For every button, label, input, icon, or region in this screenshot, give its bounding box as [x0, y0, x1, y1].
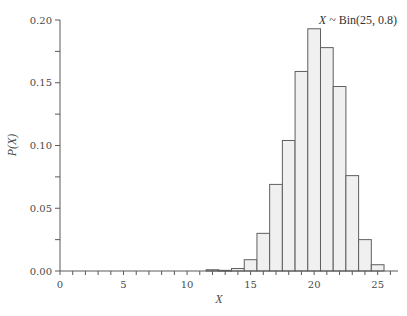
y-tick-label: 0.20: [30, 15, 52, 26]
x-tick-label: 25: [371, 279, 384, 290]
y-tick-label: 0.05: [30, 203, 52, 214]
bar-x-16: [257, 233, 270, 271]
bar-x-20: [308, 29, 321, 271]
bar-x-19: [295, 71, 308, 271]
x-tick-label: 10: [181, 279, 194, 290]
bar-x-17: [270, 184, 283, 271]
y-axis-label: P(X): [5, 134, 19, 158]
bar-x-15: [244, 260, 257, 271]
histogram-bars: [206, 29, 384, 271]
bar-x-21: [320, 48, 333, 271]
x-axis-label: X: [214, 292, 223, 306]
x-tick-label: 15: [244, 279, 257, 290]
title-distribution: ~ Bin(25, 0.8): [326, 13, 397, 27]
y-axis-ticks: 0.000.050.100.150.20: [30, 15, 60, 277]
bar-x-25: [371, 265, 384, 271]
x-tick-label: 5: [120, 279, 126, 290]
chart-title: X ~ Bin(25, 0.8): [318, 13, 397, 27]
x-tick-label: 20: [308, 279, 321, 290]
x-axis-ticks: 0510152025: [57, 271, 391, 290]
x-tick-label: 0: [57, 279, 63, 290]
binomial-distribution-chart: 0510152025 0.000.050.100.150.20 X P(X) X…: [0, 0, 407, 316]
y-tick-label: 0.00: [30, 266, 52, 277]
bar-x-22: [333, 87, 346, 271]
bar-x-23: [346, 176, 359, 271]
bar-x-24: [359, 240, 372, 271]
y-tick-label: 0.10: [30, 140, 52, 151]
y-tick-label: 0.15: [30, 77, 52, 88]
bar-x-18: [282, 140, 295, 271]
